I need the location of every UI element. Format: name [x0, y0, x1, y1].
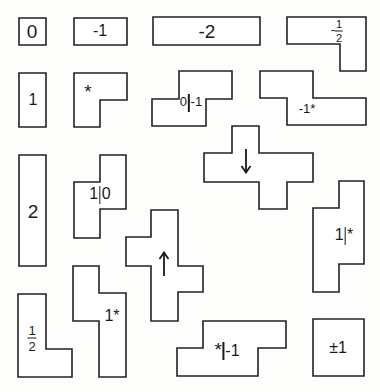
label-neg-one: -1: [93, 23, 107, 39]
label-neg-one-star: -1*: [299, 102, 316, 115]
label-two: 2: [28, 202, 39, 221]
label-neg-two: -2: [199, 22, 216, 41]
pieces-layer: [0, 0, 380, 392]
divider-bar: [188, 94, 190, 112]
label-one-star-bar: 1*: [335, 227, 354, 245]
option-right: -1: [225, 342, 239, 359]
label-one-star: 1*: [104, 308, 119, 324]
piece-half: [18, 294, 72, 377]
label-plus-minus-one: ±1: [329, 340, 347, 356]
option-left: 0: [180, 94, 187, 109]
option-right: *: [347, 226, 353, 243]
option-left: *: [214, 339, 221, 360]
label-neg-half: -12: [331, 19, 343, 44]
divider-bar: [223, 342, 225, 360]
label-half: 12: [27, 324, 36, 353]
half-fraction: 12: [27, 324, 36, 353]
neg-half-fraction: 12: [335, 19, 343, 44]
fraction-denominator: 2: [28, 339, 35, 353]
option-left: 1: [89, 185, 98, 202]
label-one-zero: 10: [89, 186, 110, 204]
label-star-neg-one: *-1: [214, 340, 239, 360]
fraction-numerator: 1: [27, 324, 36, 339]
piece-neg-one-star: [260, 71, 366, 125]
option-right: 0: [102, 185, 111, 202]
label-star: *: [84, 82, 91, 101]
label-one: 1: [29, 92, 38, 108]
fraction-denominator: 2: [336, 32, 342, 44]
diagram-canvas: 0 -1 -2 -12 1 * 0-1 -1* 2 10 1* 12 1* *-…: [0, 0, 380, 392]
piece-down: [204, 126, 313, 209]
label-zero-neg-one: 0-1: [180, 94, 202, 112]
piece-neg-half: [287, 17, 366, 71]
down-arrow-icon: [240, 148, 252, 178]
label-zero: 0: [27, 22, 38, 41]
option-right: -1: [191, 94, 203, 109]
fraction-numerator: 1: [335, 19, 343, 32]
option-left: 1: [335, 226, 344, 243]
piece-star: [74, 73, 127, 127]
up-arrow-icon: [158, 251, 170, 281]
